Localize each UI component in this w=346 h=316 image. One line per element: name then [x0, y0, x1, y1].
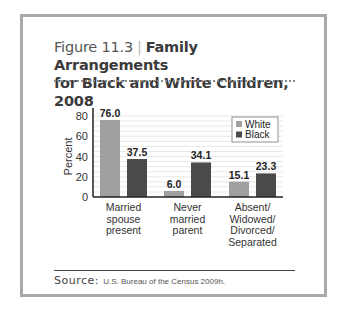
legend-label-white: White	[245, 119, 271, 130]
x-category-label: Separated	[228, 236, 277, 248]
bar-white	[164, 191, 184, 197]
x-category-label: Widowed/	[229, 213, 275, 225]
bar-black	[127, 159, 147, 197]
y-tick-label: 40	[76, 151, 88, 163]
x-category-label: spouse	[107, 213, 141, 225]
bar-value-label: 76.0	[100, 107, 121, 119]
source-note: Source: U.S. Bureau of the Census 2009h.	[54, 274, 225, 287]
bar-black	[256, 173, 276, 197]
x-category-label: Married	[106, 201, 142, 213]
source-text: U.S. Bureau of the Census 2009h.	[103, 277, 225, 286]
y-tick-label: 80	[76, 110, 88, 122]
legend-swatch-black	[236, 132, 242, 138]
x-category-label: parent	[173, 224, 203, 236]
legend-label-black: Black	[245, 129, 270, 140]
x-category-label: Absent/	[235, 201, 271, 213]
bar-white	[229, 182, 249, 197]
x-category-label: Never	[173, 201, 202, 213]
bar-value-label: 15.1	[229, 169, 250, 181]
x-category-label: present	[106, 224, 141, 236]
source-label: Source:	[54, 274, 99, 287]
y-axis-label: Percent	[62, 138, 74, 176]
bar-value-label: 23.3	[256, 160, 277, 172]
y-tick-label: 0	[82, 191, 88, 203]
legend-swatch-white	[236, 121, 242, 127]
source-divider	[54, 270, 295, 271]
bar-value-label: 34.1	[191, 149, 212, 161]
bar-white	[100, 120, 120, 197]
bar-chart: 020406080Percent76.037.5Marriedspousepre…	[0, 0, 346, 316]
x-category-label: married	[170, 213, 206, 225]
bar-black	[191, 162, 211, 197]
y-tick-label: 20	[76, 171, 88, 183]
bar-value-label: 37.5	[127, 146, 148, 158]
x-category-label: Divorced/	[230, 224, 274, 236]
y-tick-label: 60	[76, 130, 88, 142]
bar-value-label: 6.0	[167, 178, 182, 190]
